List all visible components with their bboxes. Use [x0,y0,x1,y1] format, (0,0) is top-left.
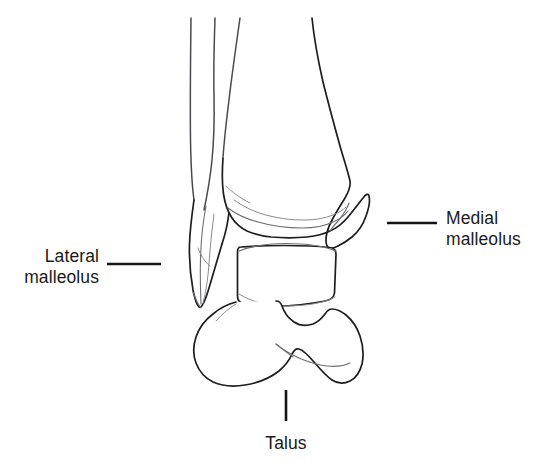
medial-malleolus-label-line2: malleolus [446,229,521,249]
anatomy-diagram: Ankle joint anatomy — anterior view line… [0,0,536,471]
lateral-malleolus-label-line1: Lateral [45,246,99,266]
tibia-outline [222,18,369,248]
tibia-group [222,18,369,248]
ankle-diagram-svg: Ankle joint anatomy — anterior view line… [0,0,536,471]
talus-dome-outline [238,246,337,307]
medial-malleolus-label-line1: Medial [446,208,498,228]
talus-label: Talus [265,433,307,453]
fibula-lateral-shaft-line [190,18,194,200]
fibula-medial-shaft-line [204,18,215,210]
talus-body-group [194,301,363,386]
lateral-malleolus-label-line2: malleolus [24,267,99,287]
talus-dome-group [238,244,337,307]
talus-body-outline [194,301,363,386]
